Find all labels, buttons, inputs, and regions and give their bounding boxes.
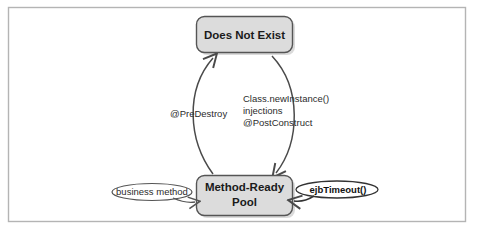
invocation-business-method-label: business method <box>116 186 188 197</box>
diagram-canvas: Does Not Exist Method-Ready Pool @PreDes… <box>0 0 477 230</box>
invocation-ejb-timeout-label: ejbTimeout() <box>310 184 367 195</box>
transition-label-create-line3: @PostConstruct <box>243 117 313 128</box>
state-diagram: Does Not Exist Method-Ready Pool @PreDes… <box>0 0 477 230</box>
transition-label-create-line2: injections <box>243 105 283 116</box>
state-does-not-exist-label: Does Not Exist <box>204 29 285 41</box>
transition-label-predestroy: @PreDestroy <box>170 108 227 119</box>
state-method-ready-pool-label-line2: Pool <box>232 196 257 208</box>
state-method-ready-pool-label-line1: Method-Ready <box>205 181 285 193</box>
transition-label-create-line1: Class.newInstance() <box>243 93 329 104</box>
